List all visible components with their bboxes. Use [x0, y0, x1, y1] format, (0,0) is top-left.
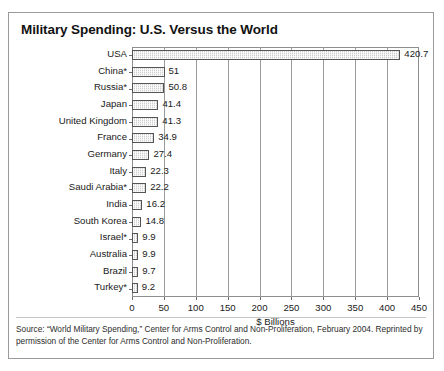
category-label: Germany — [88, 148, 127, 159]
value-label: 9.9 — [142, 231, 155, 242]
bar — [132, 283, 138, 293]
value-label: 14.8 — [145, 215, 164, 226]
bar — [132, 133, 154, 143]
bar — [132, 67, 165, 77]
x-axis-tick — [387, 297, 388, 300]
x-axis-tick — [419, 297, 420, 300]
value-label: 22.2 — [150, 181, 169, 192]
category-label: Australia — [90, 248, 127, 259]
x-axis-tick — [291, 297, 292, 300]
category-label: Brazil — [103, 265, 127, 276]
x-axis-tick-label: 200 — [252, 302, 268, 313]
x-axis-tick-label: 0 — [129, 302, 134, 313]
x-axis-tick-label: 150 — [220, 302, 236, 313]
x-axis-tick-label: 100 — [188, 302, 204, 313]
bar — [132, 267, 138, 277]
x-axis-tick-label: 300 — [315, 302, 331, 313]
value-label: 9.2 — [142, 281, 155, 292]
x-axis-tick — [196, 297, 197, 300]
category-label: Italy — [109, 165, 127, 176]
bar-row: South Korea14.8 — [132, 214, 419, 231]
plot-area: USA420.7China*51Russia*50.8Japan41.4Unit… — [132, 47, 419, 297]
category-label: China* — [98, 65, 127, 76]
bar-row: Saudi Arabia*22.2 — [132, 180, 419, 197]
bar-row: Russia*50.8 — [132, 80, 419, 97]
x-axis-tick-label: 450 — [411, 302, 427, 313]
bar-row: United Kingdom41.3 — [132, 114, 419, 131]
bar-row: India16.2 — [132, 197, 419, 214]
value-label: 27.4 — [153, 148, 172, 159]
x-axis-tick — [164, 297, 165, 300]
bar-row: USA420.7 — [132, 47, 419, 64]
category-label: Israel* — [100, 231, 127, 242]
bar-row: China*51 — [132, 64, 419, 81]
x-axis-tick — [355, 297, 356, 300]
x-axis-tick-label: 50 — [159, 302, 170, 313]
x-axis-tick-label: 250 — [283, 302, 299, 313]
bar — [132, 183, 146, 193]
bar — [132, 100, 158, 110]
category-label: India — [106, 198, 127, 209]
source-note: Source: “World Military Spending,” Cente… — [16, 324, 425, 347]
value-label: 9.9 — [142, 248, 155, 259]
bar-row: Israel*9.9 — [132, 230, 419, 247]
x-axis-tick — [132, 297, 133, 300]
bar — [132, 117, 158, 127]
category-label: USA — [107, 48, 127, 59]
x-axis-tick-label: 400 — [379, 302, 395, 313]
value-label: 41.3 — [162, 115, 181, 126]
x-axis-tick — [323, 297, 324, 300]
x-axis-tick — [228, 297, 229, 300]
value-label: 34.9 — [158, 131, 177, 142]
bar-row: Italy22.3 — [132, 164, 419, 181]
bar-row: Japan41.4 — [132, 97, 419, 114]
bar — [132, 50, 400, 60]
bar — [132, 250, 138, 260]
bar-row: Brazil9.7 — [132, 264, 419, 281]
value-label: 420.7 — [404, 48, 428, 59]
value-label: 9.7 — [142, 265, 155, 276]
chart-title: Military Spending: U.S. Versus the World — [21, 22, 278, 37]
category-label: France — [97, 131, 127, 142]
value-label: 41.4 — [162, 98, 181, 109]
value-label: 22.3 — [150, 165, 169, 176]
category-label: Russia* — [94, 81, 127, 92]
x-axis-tick-label: 350 — [347, 302, 363, 313]
category-label: Turkey* — [94, 281, 127, 292]
bar — [132, 83, 164, 93]
value-label: 51 — [169, 65, 180, 76]
bar — [132, 233, 138, 243]
bar-row: Australia9.9 — [132, 247, 419, 264]
value-label: 16.2 — [146, 198, 165, 209]
category-label: Saudi Arabia* — [69, 181, 127, 192]
bar — [132, 217, 141, 227]
footnote-divider — [16, 317, 426, 318]
category-label: South Korea — [74, 215, 127, 226]
x-axis-tick — [260, 297, 261, 300]
bar — [132, 167, 146, 177]
bar-row: Turkey*9.2 — [132, 280, 419, 297]
value-label: 50.8 — [168, 81, 187, 92]
category-label: Japan — [101, 98, 127, 109]
bar — [132, 200, 142, 210]
bar-row: France34.9 — [132, 130, 419, 147]
bar — [132, 150, 149, 160]
category-label: United Kingdom — [59, 115, 127, 126]
bar-row: Germany27.4 — [132, 147, 419, 164]
figure-panel: Military Spending: U.S. Versus the World… — [8, 12, 434, 359]
